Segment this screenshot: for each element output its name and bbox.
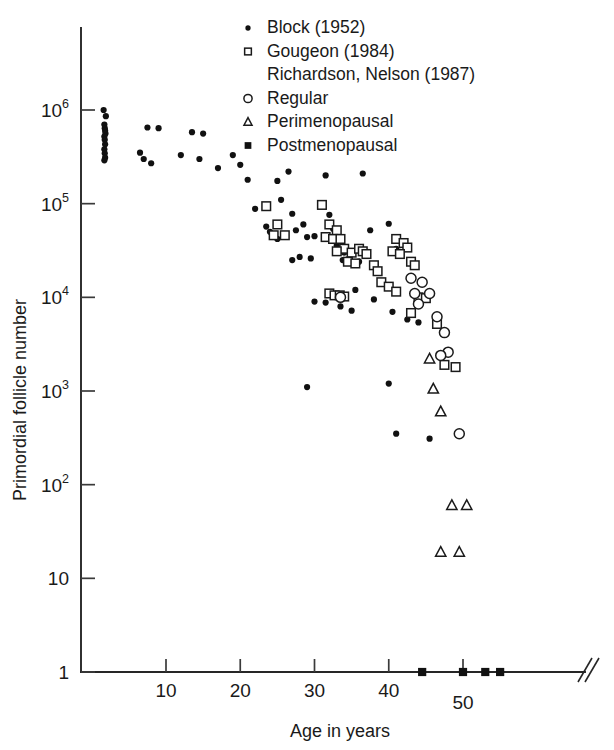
data-point-filled-dot	[245, 25, 250, 30]
data-point-filled-dot	[101, 157, 107, 163]
y-axis-tick-labels: 110102103104105106	[41, 97, 69, 683]
data-point-filled-dot	[148, 160, 154, 166]
data-point-filled-dot	[215, 165, 221, 171]
data-point-filled-dot	[308, 255, 314, 261]
data-point-filled-dot	[144, 124, 150, 130]
legend-marker-filled-dot	[245, 25, 250, 30]
data-point-filled-dot	[337, 303, 343, 309]
legend-marker-open-square	[245, 48, 252, 55]
legend-label: Richardson, Nelson (1987)	[267, 64, 475, 84]
legend-label: Postmenopausal	[267, 135, 397, 155]
data-point-filled-dot	[304, 234, 310, 240]
data-point-filled-dot	[274, 178, 280, 184]
x-axis-tick-labels: 1020304050	[155, 680, 473, 713]
legend-marker-open-triangle	[244, 118, 252, 126]
y-tick-label: 104	[41, 284, 69, 308]
legend-label: Regular	[267, 88, 328, 108]
data-point-filled-dot	[141, 156, 147, 162]
data-point-filled-dot	[289, 257, 295, 263]
y-axis-title: Primordial follicle number	[10, 299, 30, 501]
data-point-filled-dot	[297, 254, 303, 260]
data-point-filled-dot	[196, 156, 202, 162]
data-point-open-square	[351, 259, 360, 268]
series-open-triangle	[424, 353, 471, 556]
data-point-open-circle	[436, 350, 446, 360]
data-point-open-square	[407, 309, 416, 318]
data-point-filled-dot	[371, 296, 377, 302]
data-point-open-circle	[335, 292, 345, 302]
data-point-open-circle	[425, 288, 435, 298]
data-point-open-triangle	[424, 353, 434, 363]
x-axis-title: Age in years	[290, 721, 390, 741]
data-point-open-triangle	[462, 500, 472, 510]
data-point-filled-dot	[245, 177, 251, 183]
data-point-filled-dot	[252, 206, 258, 212]
data-point-filled-dot	[237, 162, 243, 168]
data-point-filled-dot	[263, 223, 269, 229]
data-point-open-circle	[417, 277, 427, 287]
data-point-filled-dot	[189, 129, 195, 135]
data-point-filled-square	[496, 668, 504, 676]
series-filled-dot	[101, 107, 433, 442]
data-point-filled-dot	[155, 125, 161, 131]
data-point-filled-dot	[352, 287, 358, 293]
data-point-filled-dot	[386, 221, 392, 227]
data-point-filled-dot	[293, 227, 299, 233]
data-point-open-square	[273, 220, 282, 229]
data-point-filled-dot	[285, 168, 291, 174]
data-point-filled-dot	[393, 431, 399, 437]
legend: Block (1952)Gougeon (1984)Richardson, Ne…	[244, 17, 475, 155]
data-point-open-square	[410, 261, 419, 270]
data-point-open-square	[262, 202, 271, 211]
data-point-filled-dot	[415, 319, 421, 325]
data-point-open-circle	[413, 299, 423, 309]
axis-ticks	[81, 110, 463, 672]
data-point-open-square	[440, 361, 449, 370]
data-point-open-circle	[406, 273, 416, 283]
data-point-open-square	[281, 231, 290, 240]
y-tick-label: 105	[41, 191, 69, 215]
data-point-open-square	[318, 201, 327, 210]
data-point-open-square	[269, 231, 278, 240]
data-point-open-square	[451, 363, 460, 372]
data-point-open-square	[362, 250, 371, 259]
data-point-filled-dot	[323, 299, 329, 305]
data-point-filled-dot	[304, 384, 310, 390]
data-point-open-square	[332, 226, 341, 235]
data-point-open-circle	[454, 429, 464, 439]
legend-marker-filled-square	[245, 142, 252, 149]
data-point-filled-dot	[311, 233, 317, 239]
data-point-filled-square	[418, 668, 426, 676]
x-tick-label: 30	[304, 680, 325, 701]
data-point-filled-dot	[137, 150, 143, 156]
data-point-open-square	[392, 287, 401, 296]
data-point-filled-dot	[178, 152, 184, 158]
x-tick-label: 10	[155, 680, 176, 701]
data-point-open-square	[245, 48, 252, 55]
data-point-filled-dot	[289, 211, 295, 217]
legend-label: Perimenopausal	[267, 111, 393, 131]
data-point-filled-dot	[278, 197, 284, 203]
data-point-open-circle	[410, 288, 420, 298]
data-point-filled-dot	[200, 130, 206, 136]
data-point-open-square	[396, 250, 405, 259]
legend-label: Block (1952)	[267, 17, 365, 37]
data-point-filled-dot	[101, 107, 107, 113]
legend-label: Gougeon (1984)	[267, 41, 394, 61]
y-tick-label: 103	[41, 378, 69, 402]
y-tick-label: 1	[58, 662, 69, 683]
data-point-open-circle	[432, 312, 442, 322]
data-point-filled-square	[481, 668, 489, 676]
x-tick-label: 40	[378, 680, 399, 701]
data-point-open-triangle	[244, 118, 252, 126]
data-point-filled-dot	[300, 221, 306, 227]
scatter-plot-svg: 110102103104105106 1020304050 Block (195…	[0, 0, 614, 750]
data-point-open-square	[336, 235, 345, 244]
data-point-open-triangle	[436, 547, 446, 557]
series-open-square	[262, 201, 460, 372]
data-point-open-triangle	[428, 383, 438, 393]
data-point-filled-dot	[386, 380, 392, 386]
data-point-filled-square	[459, 668, 467, 676]
data-point-filled-dot	[103, 113, 109, 119]
data-point-filled-square	[245, 142, 252, 149]
